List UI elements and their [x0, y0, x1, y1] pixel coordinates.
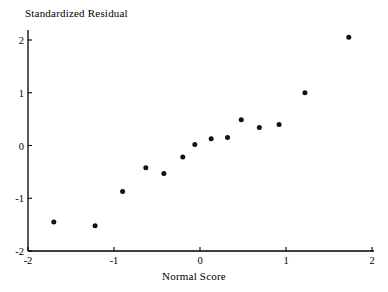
data-point	[51, 219, 56, 224]
data-points-group	[51, 35, 351, 228]
data-point	[192, 142, 197, 147]
data-point	[209, 136, 214, 141]
data-point	[143, 165, 148, 170]
axis-ticks-group	[28, 40, 372, 251]
y-tick-label: 1	[8, 87, 24, 98]
data-point	[225, 135, 230, 140]
data-point	[302, 90, 307, 95]
x-tick-label: -2	[24, 255, 33, 266]
data-point	[257, 125, 262, 130]
x-tick-label: 0	[197, 255, 202, 266]
x-axis-title: Normal Score	[0, 270, 388, 282]
data-point	[161, 171, 166, 176]
x-tick-label: 2	[369, 255, 374, 266]
x-tick-label: 1	[283, 255, 288, 266]
chart-canvas	[0, 0, 388, 292]
data-point	[180, 155, 185, 160]
data-point	[120, 189, 125, 194]
x-tick-label: -1	[110, 255, 119, 266]
axes-group	[28, 30, 374, 251]
y-tick-label: 0	[8, 140, 24, 151]
scatter-plot-figure: Standardized Residual Normal Score -2-10…	[0, 0, 388, 292]
y-tick-label: 2	[8, 35, 24, 46]
y-tick-label: -2	[8, 246, 24, 257]
data-point	[93, 223, 98, 228]
data-point	[346, 35, 351, 40]
y-axis-title: Standardized Residual	[25, 7, 128, 19]
data-point	[277, 122, 282, 127]
data-point	[239, 117, 244, 122]
y-tick-label: -1	[8, 193, 24, 204]
